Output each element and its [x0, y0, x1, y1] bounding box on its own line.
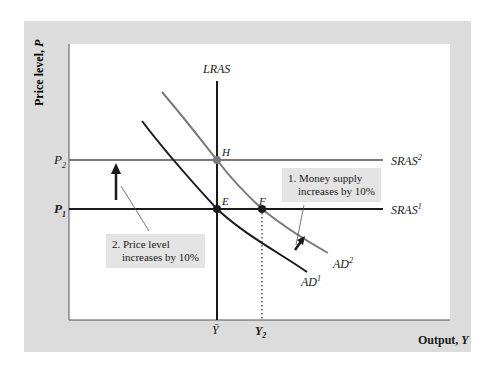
- point-e: [213, 205, 221, 213]
- price-level-note: 2. Price level increases by 10%: [106, 234, 205, 268]
- tick-p2: P2: [54, 152, 66, 170]
- x-axis-label: Output, Y: [418, 333, 469, 348]
- plot-area: [69, 44, 450, 320]
- label-h: H: [222, 146, 230, 158]
- label-lras: LRAS: [203, 62, 230, 77]
- label-sras2: SRAS2: [391, 153, 422, 169]
- label-f: F: [259, 195, 266, 207]
- y-axis-label: Price level, P: [32, 40, 47, 106]
- tick-p1: P1: [54, 201, 66, 219]
- money-supply-note: 1. Money supply increases by 10%: [282, 168, 381, 202]
- label-sras1: SRAS1: [391, 202, 422, 218]
- money-note-line2: increases by 10%: [288, 185, 375, 198]
- tick-y2: Y2: [255, 324, 266, 340]
- diagram-canvas: [0, 0, 492, 376]
- label-ad1: AD1: [301, 274, 321, 290]
- tick-y-bar: Ȳ: [212, 323, 219, 338]
- price-note-line1: 2. Price level: [112, 238, 170, 250]
- label-ad2: AD2: [333, 256, 353, 272]
- label-e: E: [222, 195, 229, 207]
- price-note-line2: increases by 10%: [112, 251, 199, 264]
- point-h: [213, 156, 221, 164]
- money-note-line1: 1. Money supply: [288, 172, 362, 184]
